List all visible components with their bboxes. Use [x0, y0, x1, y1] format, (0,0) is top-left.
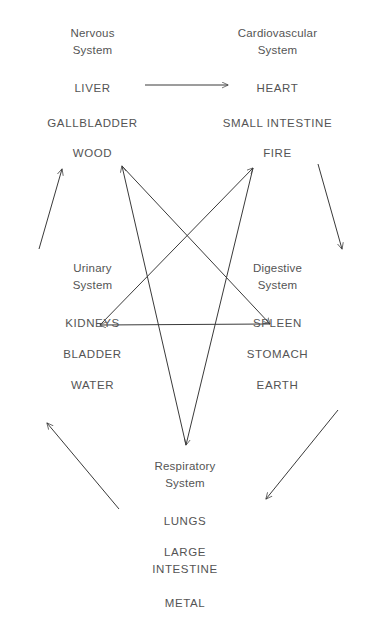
node-wood-system-line2: System: [0, 42, 185, 59]
node-wood-element: WOOD: [0, 145, 185, 162]
node-water-system: Urinary System: [0, 260, 185, 293]
node-earth-element: EARTH: [185, 377, 370, 394]
node-wood-system-line1: Nervous: [0, 25, 185, 42]
node-metal-system: Respiratory System: [90, 458, 280, 491]
node-wood-system: Nervous System: [0, 25, 185, 58]
arrow-fire-to-earth: [318, 164, 342, 249]
node-earth-system-line1: Digestive: [185, 260, 370, 277]
node-fire-system-line1: Cardiovascular: [185, 25, 370, 42]
node-fire-system: Cardiovascular System: [185, 25, 370, 58]
node-water-element: WATER: [0, 377, 185, 394]
node-metal-element: METAL: [90, 595, 280, 612]
node-water-yang-organ: BLADDER: [0, 346, 185, 363]
node-earth-yang-organ: STOMACH: [185, 346, 370, 363]
node-metal-system-line1: Respiratory: [90, 458, 280, 475]
node-earth-yin-organ: SPLEEN: [185, 315, 370, 332]
node-wood-yang-organ: GALLBLADDER: [0, 115, 185, 132]
node-water-system-line1: Urinary: [0, 260, 185, 277]
node-fire-yang-organ: SMALL INTESTINE: [185, 115, 370, 132]
node-water-system-line2: System: [0, 277, 185, 294]
five-elements-diagram: Nervous System LIVER GALLBLADDER WOOD Ca…: [0, 0, 370, 631]
node-fire-yin-organ: HEART: [185, 80, 370, 97]
node-metal-system-line2: System: [90, 475, 280, 492]
node-fire-system-line2: System: [185, 42, 370, 59]
arrow-metal-to-wood: [122, 166, 186, 445]
node-water-yin-organ: KIDNEYS: [0, 315, 185, 332]
arrow-water-to-fire: [100, 168, 253, 325]
arrow-wood-to-earth: [122, 166, 270, 324]
node-fire-element: FIRE: [185, 145, 370, 162]
node-metal-yang-organ-line1: LARGE: [90, 544, 280, 561]
arrow-fire-to-metal: [186, 168, 253, 445]
node-wood-yin-organ: LIVER: [0, 80, 185, 97]
node-metal-yang-organ: LARGE INTESTINE: [90, 544, 280, 577]
node-metal-yang-organ-line2: INTESTINE: [90, 561, 280, 578]
node-earth-system: Digestive System: [185, 260, 370, 293]
node-earth-system-line2: System: [185, 277, 370, 294]
node-metal-yin-organ: LUNGS: [90, 513, 280, 530]
arrow-water-to-wood: [39, 169, 62, 249]
